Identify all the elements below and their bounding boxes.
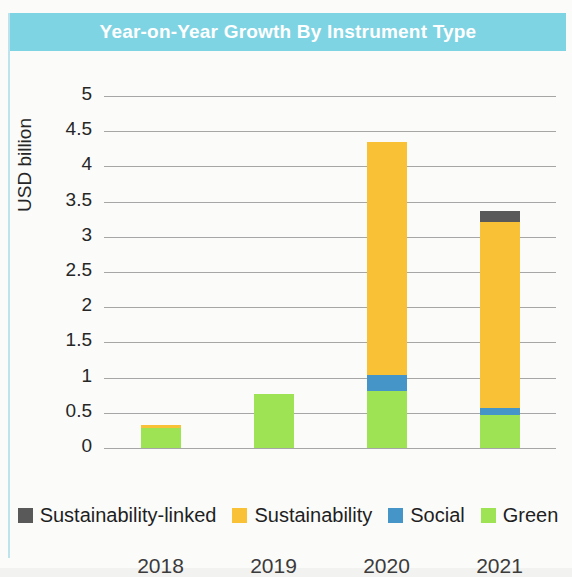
bar-stack-2019[interactable]	[254, 96, 294, 448]
y-axis-tick-label: 5	[36, 83, 92, 105]
y-axis-tick-label: 0	[36, 435, 92, 457]
bar-segment-2020-green[interactable]	[367, 391, 407, 448]
legend-swatch-green	[481, 508, 496, 523]
bar-segment-2021-green[interactable]	[480, 415, 520, 448]
legend-label: Sustainability	[254, 504, 372, 527]
bar-stack-2018[interactable]	[141, 96, 181, 448]
legend-item-green[interactable]: Green	[481, 504, 559, 527]
bar-segment-2018-green[interactable]	[141, 428, 181, 448]
left-accent-rule	[8, 13, 10, 558]
gridline	[104, 448, 556, 449]
legend-label: Green	[503, 504, 559, 527]
bar-segment-2018-sustainability[interactable]	[141, 425, 181, 429]
bar-segment-2021-sustainability[interactable]	[480, 222, 520, 408]
bar-stack-2020[interactable]	[367, 96, 407, 448]
y-axis-tick-label: 4	[36, 153, 92, 175]
x-axis-tick-label-2021: 2021	[440, 554, 560, 577]
x-axis-tick-label-2018: 2018	[101, 554, 221, 577]
y-axis-tick-label: 0.5	[36, 400, 92, 422]
y-axis-tick-label: 3.5	[36, 189, 92, 211]
legend-label: Sustainability-linked	[40, 504, 217, 527]
page-title: Year-on-Year Growth By Instrument Type	[100, 21, 477, 43]
x-axis-tick-label-2020: 2020	[327, 554, 447, 577]
legend-swatch-sustainability-linked	[18, 508, 33, 523]
legend-item-sustainability[interactable]: Sustainability	[232, 504, 372, 527]
legend-item-social[interactable]: Social	[388, 504, 464, 527]
y-axis-tick-label: 1.5	[36, 329, 92, 351]
y-axis-tick-label: 3	[36, 224, 92, 246]
x-axis-tick-label-2019: 2019	[214, 554, 334, 577]
bar-segment-2021-social[interactable]	[480, 408, 520, 415]
bar-segment-2020-social[interactable]	[367, 375, 407, 390]
bar-segment-2020-sustainability[interactable]	[367, 142, 407, 376]
plot-area: 54.543.532.521.510.50 2018201920202021	[104, 96, 556, 448]
bar-segment-2021-sustainability-linked[interactable]	[480, 211, 520, 222]
y-axis-tick-label: 1	[36, 365, 92, 387]
legend-item-sustainability-linked[interactable]: Sustainability-linked	[18, 504, 217, 527]
legend-swatch-sustainability	[232, 508, 247, 523]
bar-segment-2019-green[interactable]	[254, 394, 294, 448]
y-axis-tick-label: 2	[36, 294, 92, 316]
chart-legend: Sustainability-linkedSustainabilitySocia…	[10, 500, 566, 530]
legend-swatch-social	[388, 508, 403, 523]
y-axis-tick-label: 2.5	[36, 259, 92, 281]
legend-label: Social	[410, 504, 464, 527]
y-axis-title: USD billion	[14, 118, 36, 212]
y-axis-tick-label: 4.5	[36, 118, 92, 140]
bar-stack-2021[interactable]	[480, 96, 520, 448]
chart-title-banner: Year-on-Year Growth By Instrument Type	[10, 13, 566, 51]
